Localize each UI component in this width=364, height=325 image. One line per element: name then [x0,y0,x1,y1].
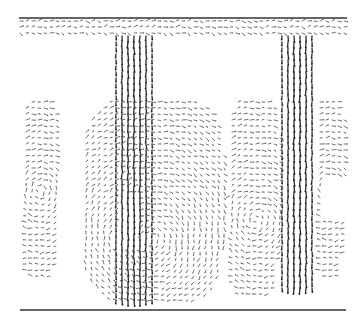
vector-field-figure [0,0,364,325]
boundary-walls [19,18,347,310]
velocity-arrows [20,19,348,307]
